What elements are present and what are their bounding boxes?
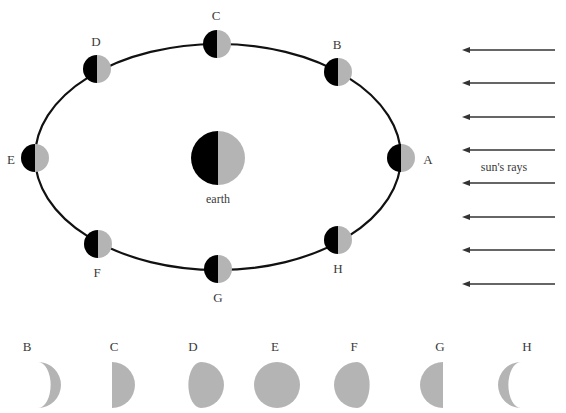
moon-phase-diagram: earth sun's rays A B C D E F G H B C D E… [0,0,566,413]
arrowhead-icon [462,80,470,86]
lit-half [218,255,232,283]
lit-half [218,131,245,185]
arrowhead-icon [462,214,470,220]
arrowhead-icon [462,147,470,153]
lit-half [338,226,352,254]
lit-half [98,230,112,258]
moon-label-b: B [333,38,342,51]
arrowhead-icon [462,114,470,120]
moon-e [21,144,49,172]
dark-half [21,144,35,172]
phase-shape-e [254,362,300,408]
moon-label-e: E [7,153,15,166]
phase-shape-f [334,362,370,408]
lit-half [217,30,231,58]
moon-label-h: H [333,262,342,275]
moon-c [203,30,231,58]
phase-label-h: H [522,340,531,353]
phase-shape-d [188,362,224,408]
earth [191,131,245,185]
moon-b [324,58,352,86]
sun-rays-label: sun's rays [481,161,528,174]
phase-label-g: G [435,340,444,353]
moon-a [387,144,415,172]
lit-half [401,144,415,172]
phase-label-b: B [23,340,32,353]
phase-label-d: D [188,340,197,353]
arrowhead-icon [462,281,470,287]
diagram-canvas [0,0,566,413]
dark-half [324,58,338,86]
arrowhead-icon [462,180,470,186]
arrowhead-icon [462,247,470,253]
phase-label-e: E [271,340,279,353]
moon-label-d: D [91,35,100,48]
lit-half [35,144,49,172]
dark-half [204,255,218,283]
phase-shape-h [498,362,521,408]
moon-label-a: A [423,153,432,166]
phase-label-c: C [110,340,119,353]
earth-globe [191,131,245,185]
dark-half [387,144,401,172]
phase-shape-c [112,362,135,408]
phase-shape-g [420,362,443,408]
moon-label-g: G [213,291,222,304]
dark-half [203,30,217,58]
dark-half [324,226,338,254]
lit-half [338,58,352,86]
arrowhead-icon [462,47,470,53]
moon-label-f: F [93,266,100,279]
phase-label-f: F [350,340,357,353]
moon-h [324,226,352,254]
moon-label-c: C [212,9,221,22]
moon-g [204,255,232,283]
moon-f [84,230,112,258]
phase-shape-b [38,362,61,408]
moon-d [83,55,111,83]
earth-label: earth [206,193,230,206]
dark-half [191,131,218,185]
phase-shapes [38,362,521,408]
lit-half [97,55,111,83]
